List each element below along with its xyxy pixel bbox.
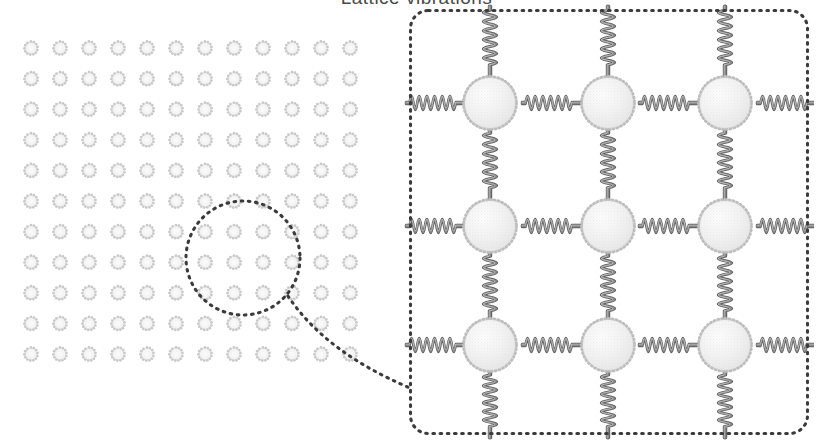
lattice-atom <box>168 40 184 56</box>
spring-vertical <box>718 371 731 438</box>
lattice-row <box>23 254 358 270</box>
spring-horizontal <box>406 338 466 351</box>
spring-horizontal <box>639 219 699 232</box>
spring-horizontal <box>522 338 582 351</box>
detail-sphere <box>463 199 516 252</box>
lattice-atom <box>81 40 97 56</box>
detail-sphere-row <box>463 318 751 371</box>
spring-vertical <box>601 371 614 438</box>
detail-sphere-row <box>463 199 751 252</box>
spring-vertical <box>718 6 731 77</box>
detail-sphere <box>698 318 751 371</box>
spring-vertical <box>601 252 614 323</box>
detail-sphere-row <box>463 76 751 129</box>
spring-vertical <box>483 129 496 200</box>
lattice-row <box>23 71 358 87</box>
spring-vertical <box>718 129 731 200</box>
spring-vertical <box>483 252 496 323</box>
lattice-row <box>23 346 358 362</box>
lattice-atom <box>255 40 271 56</box>
lattice-row <box>23 285 358 301</box>
spring-horizontal <box>639 338 699 351</box>
lattice-atom <box>313 40 329 56</box>
detail-panel <box>406 6 817 438</box>
lattice-atom <box>226 40 242 56</box>
detail-sphere <box>581 76 634 129</box>
lattice-atom <box>197 40 213 56</box>
lattice-atom <box>342 40 358 56</box>
detail-sphere <box>581 318 634 371</box>
spring-horizontal <box>406 96 466 109</box>
lattice-row <box>23 40 358 56</box>
lattice-row <box>23 315 358 331</box>
spring-vertical <box>483 371 496 438</box>
lattice-row <box>23 193 358 209</box>
spring-vertical <box>718 252 731 323</box>
detail-sphere <box>463 318 516 371</box>
spring-horizontal <box>522 96 582 109</box>
lattice-atom <box>110 40 126 56</box>
lattice-row <box>23 132 358 148</box>
spring-vertical <box>601 6 614 77</box>
callout-leader-line <box>288 296 410 388</box>
spring-vertical <box>601 129 614 200</box>
lattice-atom <box>139 40 155 56</box>
lattice-atom <box>23 40 39 56</box>
spring-horizontal <box>406 219 466 232</box>
detail-sphere <box>698 199 751 252</box>
detail-panel-contents <box>406 6 817 438</box>
lattice-spring-figure <box>0 0 833 446</box>
figure-root: Lattice vibrations <box>0 0 833 446</box>
lattice-overview <box>23 40 358 362</box>
detail-sphere <box>581 199 634 252</box>
detail-sphere <box>698 76 751 129</box>
lattice-atom <box>52 40 68 56</box>
lattice-row <box>23 101 358 117</box>
detail-sphere <box>463 76 516 129</box>
lattice-row <box>23 162 358 178</box>
spring-horizontal <box>522 219 582 232</box>
spring-horizontal <box>639 96 699 109</box>
lattice-atom <box>284 40 300 56</box>
spring-vertical <box>483 6 496 77</box>
